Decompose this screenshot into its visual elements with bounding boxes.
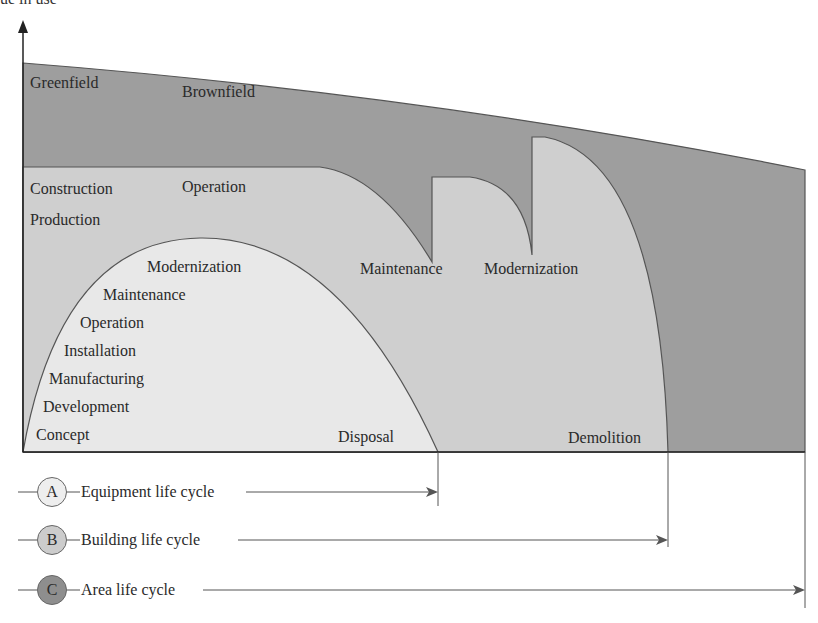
label-building-operation: Operation: [182, 178, 246, 196]
life-cycle-diagram: ue in use Greenfield Brownfield Construc…: [0, 0, 818, 623]
legend-label-building: Building life cycle: [81, 531, 200, 549]
legend-label-equipment: Equipment life cycle: [81, 483, 214, 501]
legend-circle-c: C: [37, 575, 67, 605]
diagram-graphic: [0, 0, 818, 623]
label-brownfield: Brownfield: [182, 83, 255, 101]
label-demolition: Demolition: [568, 429, 641, 447]
legend-circle-a: A: [37, 477, 67, 507]
legend-label-area: Area life cycle: [81, 581, 175, 599]
label-building-modernization: Modernization: [484, 260, 578, 278]
label-production: Production: [30, 211, 100, 229]
y-axis-title: ue in use: [0, 0, 57, 8]
y-axis-arrow-icon: [18, 20, 28, 33]
label-equipment-maintenance: Maintenance: [103, 286, 186, 304]
label-equipment-modernization: Modernization: [147, 258, 241, 276]
label-concept: Concept: [36, 426, 89, 444]
legend-circle-b: B: [37, 525, 67, 555]
label-building-maintenance: Maintenance: [360, 260, 443, 278]
label-greenfield: Greenfield: [30, 74, 98, 92]
label-installation: Installation: [64, 342, 136, 360]
label-equipment-operation: Operation: [80, 314, 144, 332]
label-manufacturing: Manufacturing: [49, 370, 144, 388]
label-development: Development: [43, 398, 129, 416]
label-construction: Construction: [30, 180, 113, 198]
label-disposal: Disposal: [338, 428, 394, 446]
